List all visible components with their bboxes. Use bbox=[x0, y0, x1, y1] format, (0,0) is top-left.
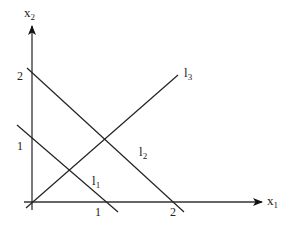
l2-label: l2 bbox=[139, 144, 147, 161]
x-tick-1: 1 bbox=[95, 205, 101, 219]
l3-label: l3 bbox=[184, 65, 193, 82]
x1-axis-label: x1 bbox=[267, 193, 278, 210]
line-l3 bbox=[26, 75, 178, 208]
l1-label: l1 bbox=[92, 173, 100, 190]
y-tick-2: 2 bbox=[17, 69, 23, 83]
y-tick-1: 1 bbox=[17, 139, 23, 153]
coordinate-diagram: x2 x1 1 2 1 2 l1 l2 l3 bbox=[0, 0, 287, 227]
diagram-canvas: x2 x1 1 2 1 2 l1 l2 l3 bbox=[0, 0, 287, 227]
x-tick-2: 2 bbox=[170, 205, 176, 219]
x2-axis-label: x2 bbox=[24, 5, 35, 22]
